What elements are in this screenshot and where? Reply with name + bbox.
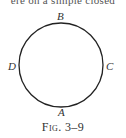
point-label-d: D (8, 61, 16, 72)
point-label-b: B (57, 11, 64, 22)
point-label-c: C (106, 61, 113, 72)
figure-caption: Fig. 3–9 (0, 120, 126, 135)
point-label-a: A (58, 107, 65, 118)
closed-curve-circle (19, 23, 103, 107)
figure-3-9: B C D A Fig. 3–9 (0, 0, 126, 138)
